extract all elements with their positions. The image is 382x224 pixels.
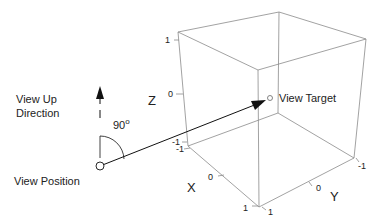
y-tick-1: 1 xyxy=(268,207,273,217)
x-tick-neg1: -1 xyxy=(176,144,184,154)
z-tick-0: 0 xyxy=(168,89,173,99)
view-up-label: View Up xyxy=(16,93,57,106)
camera-view-diagram: View Up Direction View Position View Tar… xyxy=(0,0,382,224)
y-axis-label: Y xyxy=(330,190,339,204)
view-position-label: View Position xyxy=(14,175,80,188)
angle-label: 90o xyxy=(113,115,130,132)
y-tick-0: 0 xyxy=(316,183,321,193)
x-tick-0: 0 xyxy=(208,172,213,182)
arrowhead-up-icon xyxy=(96,86,104,99)
view-target-marker xyxy=(268,96,273,101)
view-position-marker xyxy=(96,162,104,170)
angle-arc xyxy=(100,136,124,159)
y-tick-neg1: -1 xyxy=(358,161,366,171)
view-direction-arrow xyxy=(100,100,266,166)
angle-value: 90 xyxy=(113,119,125,131)
x-tick-1: 1 xyxy=(243,203,248,213)
view-up-arrow xyxy=(96,86,104,158)
z-axis-label: Z xyxy=(148,94,156,108)
bounding-box xyxy=(174,12,366,210)
degree-symbol: o xyxy=(125,117,129,126)
direction-label: Direction xyxy=(16,107,59,120)
x-axis-label: X xyxy=(187,181,196,195)
view-target-label: View Target xyxy=(279,92,336,105)
z-tick-1: 1 xyxy=(165,35,170,45)
